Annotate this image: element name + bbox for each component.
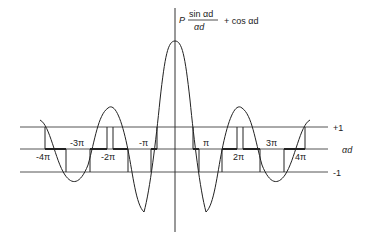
- tick-label: 4π: [295, 152, 306, 162]
- tick-label: 3π: [266, 138, 277, 148]
- tick-label: -2π: [101, 152, 115, 162]
- axis-label: αd: [342, 145, 353, 155]
- formula-suffix: + cos αd: [224, 16, 258, 26]
- formula-denominator: αd: [194, 22, 205, 32]
- tick-label: 2π: [233, 152, 244, 162]
- minus-one-label: -1: [333, 168, 341, 178]
- tick-label: -3π: [70, 138, 84, 148]
- formula-prefix: P: [179, 15, 185, 25]
- tick-label: π: [203, 138, 209, 148]
- kronig-penney-diagram: -4π -3π -2π -π π 2π 3π 4π +1 -1 αd P sin…: [0, 0, 374, 239]
- tick-label: -4π: [36, 152, 50, 162]
- formula-numerator: sin αd: [189, 9, 213, 19]
- plus-one-label: +1: [333, 123, 343, 133]
- tick-label: -π: [139, 138, 148, 148]
